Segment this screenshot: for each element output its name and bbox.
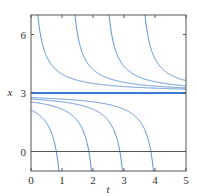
solution-curve [145,15,186,81]
x-tick-label: 5 [183,174,189,186]
solution-curve [109,15,187,86]
x-tick-label: 2 [90,174,96,186]
x-tick-label: 1 [59,174,65,186]
x-axis-label: t [106,183,110,195]
y-tick-label: 6 [21,29,27,41]
direction-field-chart: 012345036 t x [0,0,197,196]
solution-curve [31,102,92,171]
y-tick-label: 0 [21,146,27,158]
y-axis-label: x [7,86,13,98]
y-tick-label: 3 [21,87,27,99]
solution-curve [31,99,123,171]
x-tick-label: 3 [121,174,127,186]
x-tick-label: 4 [152,174,158,186]
solution-curve [37,15,186,89]
solution-curve [74,15,186,88]
solution-curve [31,110,60,171]
x-tick-label: 0 [28,174,34,186]
